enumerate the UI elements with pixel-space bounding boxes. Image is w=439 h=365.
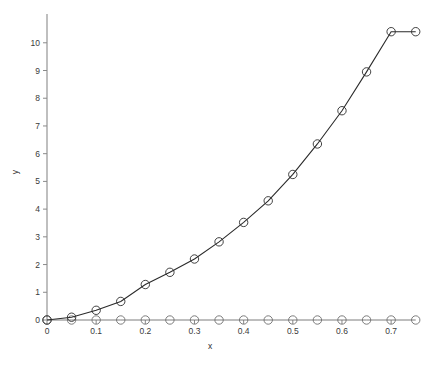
y-tick-label-9: 9 xyxy=(35,66,40,76)
x-tick-label-3: 0.3 xyxy=(189,326,201,336)
x-tick-label-1: 0.1 xyxy=(90,326,102,336)
x-tick-label-7: 0.7 xyxy=(385,326,397,336)
x-tick-label-4: 0.4 xyxy=(238,326,250,336)
y-axis-ticks: 012345678910 xyxy=(31,38,47,325)
x-tick-label-5: 0.5 xyxy=(287,326,299,336)
x-tick-label-6: 0.6 xyxy=(336,326,348,336)
y-tick-label-10: 10 xyxy=(31,38,41,48)
y-tick-label-7: 7 xyxy=(35,121,40,131)
series-baseline xyxy=(43,316,420,324)
plot-area: 00.10.20.30.40.50.60.7 012345678910 x y xyxy=(0,0,439,365)
y-tick-label-0: 0 xyxy=(35,315,40,325)
y-tick-label-5: 5 xyxy=(35,176,40,186)
y-tick-label-4: 4 xyxy=(35,204,40,214)
x-tick-label-0: 0 xyxy=(45,326,50,336)
y-tick-label-2: 2 xyxy=(35,260,40,270)
y-tick-label-1: 1 xyxy=(35,287,40,297)
y-tick-label-6: 6 xyxy=(35,149,40,159)
x-axis-ticks: 00.10.20.30.40.50.60.7 xyxy=(45,320,398,336)
x-axis-label: x xyxy=(208,341,213,351)
y-tick-label-8: 8 xyxy=(35,93,40,103)
chart-figure: 00.10.20.30.40.50.60.7 012345678910 x y xyxy=(0,0,439,365)
x-tick-label-2: 0.2 xyxy=(139,326,151,336)
series-growth-curve xyxy=(43,28,420,325)
y-tick-label-3: 3 xyxy=(35,232,40,242)
y-axis-label: y xyxy=(10,169,20,174)
